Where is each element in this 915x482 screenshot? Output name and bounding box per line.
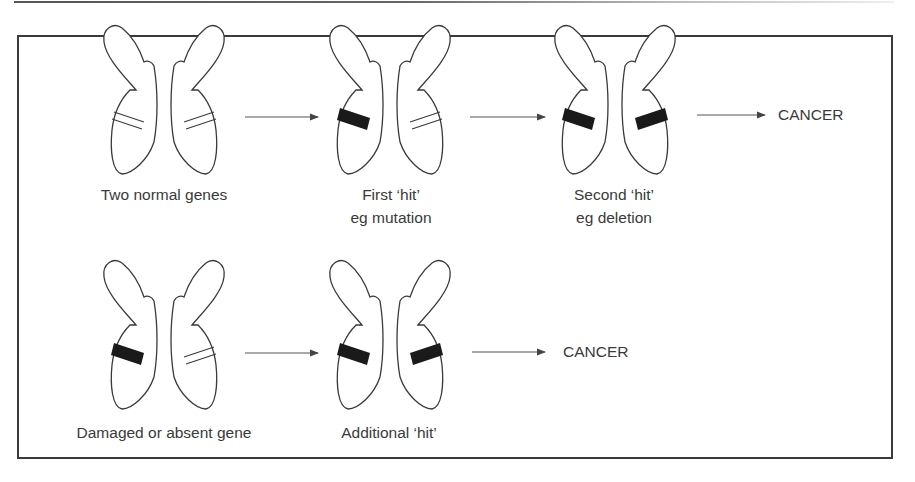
diagram-canvas [0,0,915,482]
caption-additional-hit: Additional ‘hit’ [341,421,437,445]
outcome-cancer-row1: CANCER [778,105,843,125]
outcome-cancer-row2: CANCER [563,342,628,362]
chromosome-pair-damaged [104,261,224,409]
caption-second-hit-detail: eg deletion [576,206,652,230]
caption-first-hit: First ‘hit’ [362,183,420,207]
caption-damaged-gene: Damaged or absent gene [77,421,252,445]
caption-two-normal-genes: Two normal genes [101,183,228,207]
caption-first-hit-detail: eg mutation [351,206,432,230]
chromosome-pair-normal [104,26,224,174]
caption-second-hit: Second ‘hit’ [574,183,654,207]
chromosome-pair-second-hit [555,26,675,174]
chromosome-pair-additional-hit [330,261,450,409]
chromosome-pair-first-hit [330,26,450,174]
